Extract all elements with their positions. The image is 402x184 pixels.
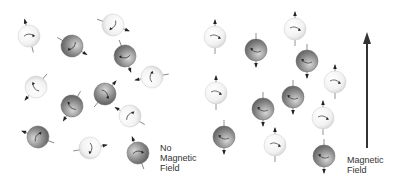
no-magnetic-field-label: No Magnetic Field: [160, 143, 197, 173]
spin-sphere: [109, 36, 142, 76]
label-line: Field: [160, 163, 197, 173]
spin-sphere: [213, 120, 235, 155]
spin-sphere: [204, 19, 226, 54]
spin-sphere: [93, 9, 133, 42]
spin-sphere: [16, 67, 55, 108]
spin-sphere: [245, 33, 267, 68]
spin-sphere: [313, 139, 335, 174]
spin-sphere: [205, 75, 227, 110]
magnetic-field-label: Magnetic Field: [347, 155, 384, 175]
arrow-head-icon: [363, 32, 371, 44]
spin-sphere: [324, 64, 346, 99]
spin-sphere: [264, 127, 286, 162]
label-line: Magnetic: [347, 155, 384, 165]
spin-sphere: [109, 97, 150, 134]
label-line: No: [160, 143, 197, 153]
spin-sphere: [252, 92, 274, 127]
spin-sphere: [284, 11, 306, 46]
spin-sphere: [71, 134, 109, 162]
spin-sphere: [296, 44, 318, 79]
spin-sphere: [132, 63, 170, 91]
spin-sphere: [52, 28, 93, 65]
spin-sphere: [53, 86, 90, 127]
spin-sphere: [312, 100, 334, 135]
spin-sphere: [122, 132, 155, 172]
spin-sphere: [17, 121, 57, 154]
spin-sphere: [282, 80, 304, 115]
no-field-panel: No Magnetic Field: [0, 0, 200, 184]
label-line: Magnetic: [160, 153, 197, 163]
magnetic-field-panel: Magnetic Field: [200, 0, 402, 184]
label-line: Field: [347, 165, 384, 175]
spin-sphere: [14, 16, 44, 56]
